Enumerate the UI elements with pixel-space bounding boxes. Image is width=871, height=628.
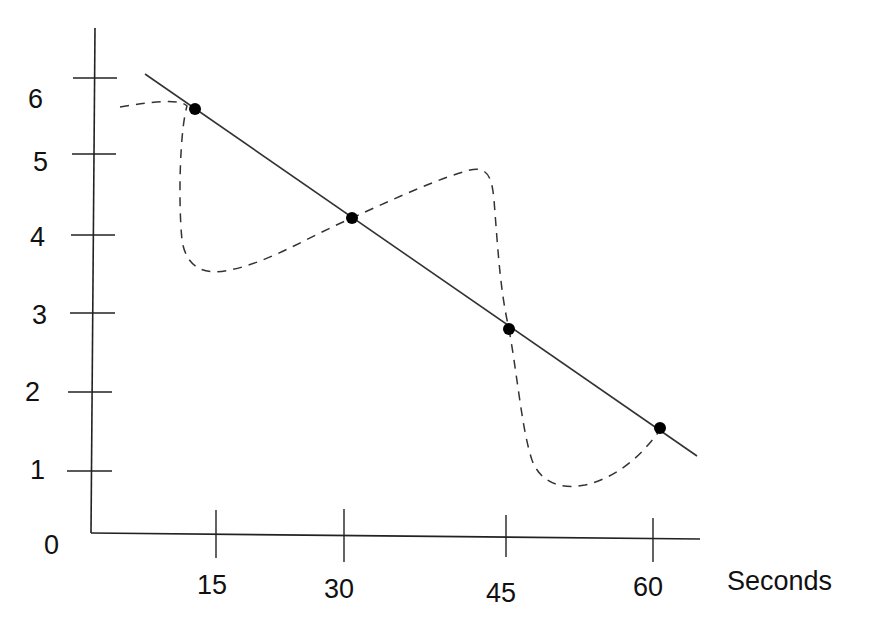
dashed-curve bbox=[120, 101, 660, 486]
x-tick-label: 60 bbox=[633, 572, 663, 602]
y-tick-label: 1 bbox=[30, 455, 45, 485]
x-axis bbox=[91, 533, 700, 539]
y-axis bbox=[91, 28, 95, 533]
y-tick-label: 0 bbox=[44, 530, 59, 560]
data-point bbox=[503, 323, 515, 335]
x-tick-label: 30 bbox=[324, 574, 354, 604]
y-tick-label: 5 bbox=[33, 147, 48, 177]
data-point bbox=[346, 212, 358, 224]
x-tick-label: 45 bbox=[486, 578, 516, 608]
y-tick-label: 2 bbox=[25, 377, 40, 407]
y-tick-label: 6 bbox=[28, 84, 43, 114]
x-tick-label: 15 bbox=[197, 570, 227, 600]
fit-line bbox=[145, 74, 697, 456]
data-point bbox=[189, 103, 201, 115]
chart: 6 5 4 3 2 1 0 15 30 45 60 Seconds bbox=[0, 0, 871, 628]
y-tick-label: 3 bbox=[32, 300, 47, 330]
data-point bbox=[654, 422, 666, 434]
x-axis-title: Seconds bbox=[727, 566, 832, 596]
y-tick-label: 4 bbox=[30, 222, 45, 252]
